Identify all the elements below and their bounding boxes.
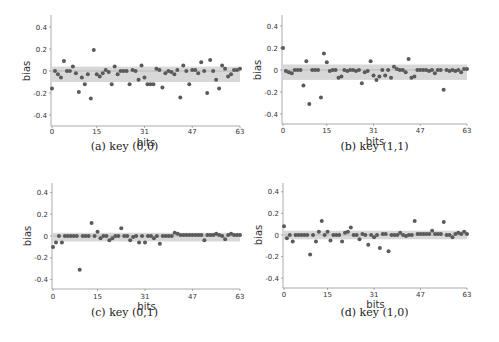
data-point [433, 71, 437, 75]
x-tick-label: 47 [416, 291, 425, 299]
data-point [56, 72, 60, 76]
data-point [59, 76, 63, 80]
data-point [211, 69, 215, 73]
y-tick-label: -0.4 [265, 275, 279, 283]
data-point [110, 82, 114, 86]
data-point [181, 64, 185, 68]
data-point [172, 72, 176, 76]
y-tick-label: 0 [44, 233, 48, 241]
data-point [199, 233, 203, 237]
data-point [202, 238, 206, 242]
data-point [53, 69, 57, 73]
y-tick-label: -0.4 [33, 112, 47, 120]
data-point [93, 234, 97, 238]
x-tick-label: 0 [282, 291, 286, 299]
data-point [80, 76, 84, 80]
y-tick-label: 0.4 [267, 23, 279, 31]
y-tick-label: 0.4 [36, 24, 48, 32]
data-point [87, 234, 91, 238]
data-point [160, 86, 164, 90]
data-point [285, 236, 289, 240]
data-point [83, 82, 87, 86]
data-point [307, 102, 311, 106]
x-tick-label: 47 [188, 128, 197, 136]
data-point [305, 233, 309, 237]
data-point [220, 64, 224, 68]
data-point [334, 68, 338, 72]
y-tick-label: 0.2 [37, 211, 48, 219]
data-point [187, 82, 191, 86]
data-point [386, 68, 390, 72]
data-point [208, 58, 212, 62]
data-point [282, 224, 286, 228]
data-point [134, 234, 138, 238]
data-point [75, 234, 79, 238]
data-point [50, 87, 54, 91]
data-point [346, 230, 350, 234]
data-point [459, 70, 463, 74]
x-tick-label: 31 [141, 293, 150, 301]
data-point [387, 249, 391, 253]
data-point [407, 57, 411, 61]
data-point [57, 234, 61, 238]
data-point [304, 59, 308, 63]
data-point [339, 75, 343, 79]
data-point [71, 65, 75, 69]
data-point [113, 65, 117, 69]
data-point [366, 69, 370, 73]
data-point [349, 225, 353, 229]
data-point [363, 233, 367, 237]
data-point [89, 97, 93, 101]
data-point [104, 234, 108, 238]
data-point [357, 68, 361, 72]
x-tick-label: 0 [50, 128, 54, 136]
data-point [290, 71, 294, 75]
data-point [410, 233, 414, 237]
data-point [360, 81, 364, 85]
x-tick-label: 63 [463, 291, 472, 299]
data-point [366, 243, 370, 247]
data-point [325, 60, 329, 64]
y-tick-label: 0.4 [268, 188, 280, 196]
x-tick-label: 31 [140, 128, 149, 136]
data-point [430, 68, 434, 72]
data-point [316, 68, 320, 72]
data-point [62, 59, 66, 63]
data-point [384, 232, 388, 236]
data-point [101, 71, 105, 75]
data-point [158, 242, 162, 246]
data-point [439, 232, 443, 236]
data-point [465, 67, 469, 71]
data-point [374, 78, 378, 82]
x-tick-label: 0 [281, 127, 285, 135]
data-point [380, 68, 384, 72]
caption-c: (c) key (0,1) [0, 306, 249, 319]
x-tick-label: 63 [236, 293, 245, 301]
data-point [427, 232, 431, 236]
y-tick-label: 0.2 [36, 46, 47, 54]
y-axis-label: bias [22, 226, 33, 246]
data-point [372, 74, 376, 78]
data-point [137, 78, 141, 82]
caption-a: (a) key (0,0) [0, 140, 249, 153]
data-point [442, 88, 446, 92]
data-point [229, 72, 233, 76]
data-point [128, 238, 132, 242]
y-tick-label: -0.2 [264, 89, 278, 97]
data-point [51, 245, 55, 249]
data-point [78, 268, 82, 272]
data-point [184, 69, 188, 73]
data-point [134, 69, 138, 73]
data-point [413, 219, 417, 223]
data-point [311, 233, 315, 237]
y-tick-label: 0 [275, 232, 279, 240]
x-tick-label: 31 [369, 127, 378, 135]
data-point [337, 233, 341, 237]
data-point [202, 69, 206, 73]
data-point [96, 230, 100, 234]
data-point [308, 252, 312, 256]
caption-b: (b) key (1,1) [250, 140, 499, 153]
data-point [223, 67, 227, 71]
data-point [355, 233, 359, 237]
data-point [205, 91, 209, 95]
